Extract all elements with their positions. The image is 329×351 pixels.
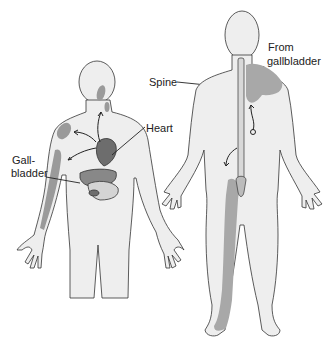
label-gallbladder-line1: Gall- bbox=[12, 154, 35, 166]
label-gallbladder-line2: bladder bbox=[11, 167, 48, 179]
label-from: From bbox=[268, 41, 294, 53]
label-heart: Heart bbox=[146, 122, 173, 134]
label-spine: Spine bbox=[149, 76, 177, 88]
label-from-gallbladder: gallbladder bbox=[267, 55, 321, 67]
